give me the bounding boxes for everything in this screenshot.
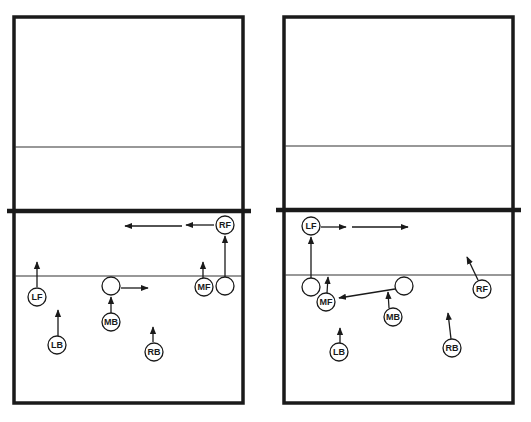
player-lb: LB (48, 336, 66, 354)
player-lf: LF (28, 288, 46, 306)
player-label: MB (104, 317, 118, 327)
volleyball-diagram: RF MF LF MB LB RB (0, 0, 531, 422)
empty-position (395, 277, 413, 295)
player-mf: MF (195, 278, 213, 296)
player-label: RF (219, 220, 231, 230)
player-label: LF (306, 221, 317, 231)
empty-position (102, 277, 120, 295)
player-mb: MB (102, 313, 120, 331)
player-mb: MB (384, 308, 402, 326)
left-court: RF MF LF MB LB RB (7, 17, 251, 403)
player-rb: RB (145, 343, 163, 361)
player-label: LB (333, 347, 345, 357)
player-rb: RB (443, 339, 461, 357)
empty-position (216, 277, 234, 295)
player-label: RB (148, 347, 161, 357)
player-mf: MF (317, 293, 335, 311)
player-label: RF (476, 284, 488, 294)
player-label: MF (198, 282, 211, 292)
empty-position (302, 278, 320, 296)
player-label: MF (320, 297, 333, 307)
player-rf: RF (216, 216, 234, 234)
player-label: RB (446, 343, 459, 353)
player-label: LB (51, 340, 63, 350)
player-label: LF (32, 292, 43, 302)
player-lf: LF (302, 217, 320, 235)
right-court: LF MF MB RF LB RB (276, 17, 521, 403)
player-lb: LB (330, 343, 348, 361)
player-rf: RF (473, 280, 491, 298)
player-label: MB (386, 312, 400, 322)
